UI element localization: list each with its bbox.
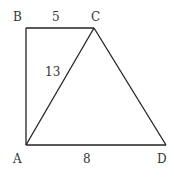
point-label-b: B [13,10,22,24]
point-label-a: A [12,152,22,166]
segment-ac [26,28,94,145]
point-label-d: D [157,152,167,166]
length-label-ac: 13 [45,65,60,79]
segment-cd [94,28,166,145]
point-label-c: C [91,10,100,24]
geometry-diagram: B 5 C 13 A 8 D [0,0,174,177]
length-label-ad: 8 [83,152,91,166]
length-label-bc: 5 [52,10,60,24]
